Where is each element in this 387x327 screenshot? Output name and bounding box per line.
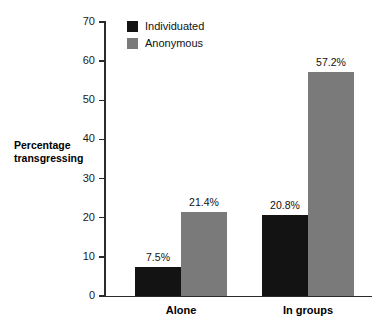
y-tick-label-40: 40 xyxy=(35,133,95,144)
bar-in-groups-anonymous[interactable] xyxy=(308,72,354,296)
legend-label-anonymous: Anonymous xyxy=(145,38,203,49)
legend-label-individuated: Individuated xyxy=(145,21,204,32)
x-axis-label-in-groups: In groups xyxy=(248,304,368,317)
y-tick-label-0: 0 xyxy=(35,290,95,301)
bar-in-groups-individuated[interactable] xyxy=(262,215,308,296)
y-tick-50 xyxy=(99,100,105,102)
legend: Individuated Anonymous xyxy=(127,19,204,53)
y-tick-label-60: 60 xyxy=(35,55,95,66)
y-tick-40 xyxy=(99,139,105,141)
y-tick-label-10: 10 xyxy=(35,251,95,262)
y-tick-30 xyxy=(99,178,105,180)
y-tick-60 xyxy=(99,60,105,62)
y-tick-20 xyxy=(99,217,105,219)
bar-value-label: 57.2% xyxy=(301,57,361,68)
bar-chart: Percentage transgressing 010203040506070… xyxy=(0,0,387,327)
y-tick-label-20: 20 xyxy=(35,212,95,223)
y-axis-title-line-2: transgressing xyxy=(14,152,100,165)
bar-value-label: 7.5% xyxy=(128,252,188,263)
legend-swatch-individuated xyxy=(127,21,138,32)
legend-item-individuated[interactable]: Individuated xyxy=(127,19,204,34)
bar-value-label: 20.8% xyxy=(255,200,315,211)
y-tick-0 xyxy=(99,295,105,297)
y-tick-label-70: 70 xyxy=(35,16,95,27)
bar-alone-anonymous[interactable] xyxy=(181,212,227,296)
x-axis-label-alone: Alone xyxy=(121,304,241,317)
bar-value-label: 21.4% xyxy=(174,197,234,208)
y-tick-label-50: 50 xyxy=(35,94,95,105)
legend-item-anonymous[interactable]: Anonymous xyxy=(127,36,204,51)
y-tick-70 xyxy=(99,21,105,23)
legend-swatch-anonymous xyxy=(127,38,138,49)
bar-alone-individuated[interactable] xyxy=(135,267,181,296)
y-tick-10 xyxy=(99,256,105,258)
y-tick-label-30: 30 xyxy=(35,173,95,184)
